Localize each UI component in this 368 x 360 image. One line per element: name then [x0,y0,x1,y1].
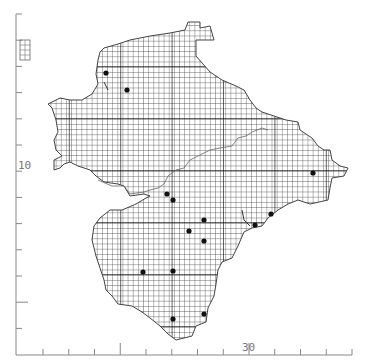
record-dot [140,269,145,274]
record-dot [164,191,169,196]
x-axis-ticks [43,343,352,355]
record-dot [170,316,175,321]
x-axis-major-label: 30 [242,341,255,354]
record-dot [252,222,257,227]
inset-island-box [20,40,30,60]
record-dot [186,228,191,233]
record-dot [201,217,206,222]
record-dot [103,70,108,75]
y-axis-major-label: 10 [18,159,31,172]
map-canvas: 10 30 [0,0,368,360]
record-dot [170,268,175,273]
record-dot [201,238,206,243]
record-dot [124,87,129,92]
record-dot [201,311,206,316]
distribution-map: 10 30 [0,0,368,360]
record-dot [310,170,315,175]
record-dot [268,211,273,216]
record-dot [170,197,175,202]
county-grid [40,20,360,350]
